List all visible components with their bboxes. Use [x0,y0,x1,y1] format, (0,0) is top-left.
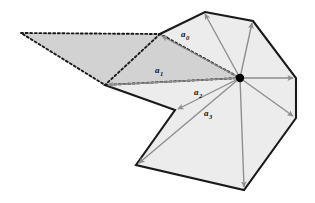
vector-label-a3-subscript: 3 [208,113,213,120]
diagram-root: a0a1a2a3 [0,0,315,203]
kernel-hub-dot [236,74,244,82]
vector-label-a1-subscript: 1 [160,70,163,77]
geometry-figure: a0a1a2a3 [0,0,315,203]
vector-label-a2-subscript: 2 [198,92,203,99]
kernel-point-layer [236,74,244,82]
